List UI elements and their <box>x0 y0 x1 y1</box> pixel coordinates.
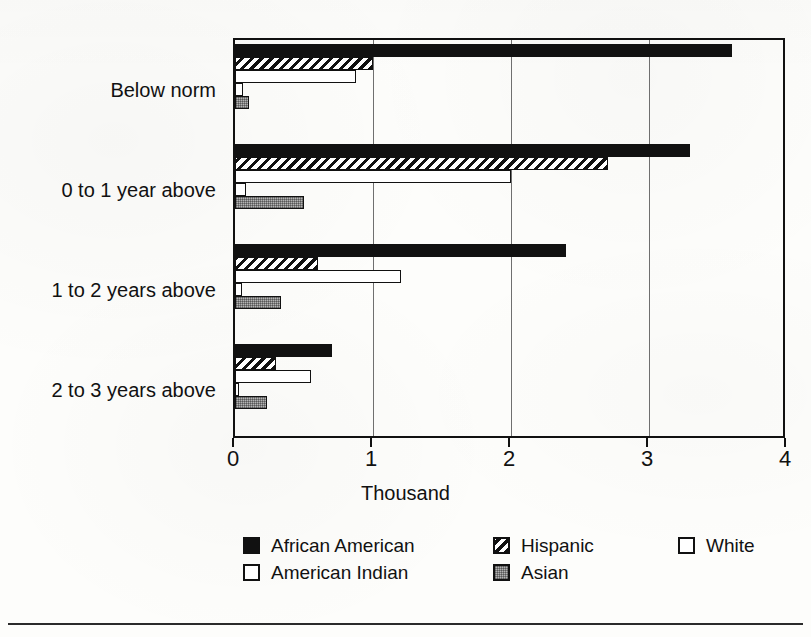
legend-swatch-gray-dotted-icon <box>493 564 510 581</box>
bar <box>235 296 281 309</box>
plot-area <box>233 38 785 438</box>
bar-group <box>235 340 783 440</box>
bar <box>235 370 311 383</box>
bar <box>235 270 401 283</box>
legend-item-african-american: African American <box>243 535 493 557</box>
legend-label-african-american: African American <box>271 535 415 557</box>
y-axis-label-below-norm: Below norm <box>110 80 216 100</box>
bar <box>235 357 276 370</box>
legend-label-american-indian: American Indian <box>271 562 408 584</box>
legend-swatch-solid-black-icon <box>243 537 260 554</box>
bar <box>235 70 356 83</box>
y-axis-label-1-to-2-years: 1 to 2 years above <box>51 280 216 300</box>
bar <box>235 57 373 70</box>
legend-item-asian: Asian <box>493 562 678 584</box>
legend-swatch-diagonal-hatch-icon <box>493 537 510 554</box>
bar <box>235 244 566 257</box>
x-tick-label-0: 0 <box>227 448 239 470</box>
x-tick-label-1: 1 <box>365 448 377 470</box>
bar <box>235 257 318 270</box>
bar-group <box>235 40 783 140</box>
y-axis-label-0-to-1-year: 0 to 1 year above <box>61 180 216 200</box>
y-axis-label-2-to-3-years: 2 to 3 years above <box>51 380 216 400</box>
bar <box>235 183 246 196</box>
legend-item-american-indian: American Indian <box>243 562 493 584</box>
legend-swatch-white-outline-icon <box>678 537 695 554</box>
bar <box>235 83 243 96</box>
legend-row-1: African American Hispanic White <box>243 532 788 559</box>
bar <box>235 96 249 109</box>
bar <box>235 144 690 157</box>
legend-item-white: White <box>678 535 755 557</box>
figure-page: Below norm 0 to 1 year above 1 to 2 year… <box>0 0 811 637</box>
bar <box>235 157 608 170</box>
legend-label-hispanic: Hispanic <box>521 535 594 557</box>
bar <box>235 170 511 183</box>
bar <box>235 44 732 57</box>
bar-group <box>235 140 783 240</box>
bar <box>235 383 239 396</box>
x-tick-label-2: 2 <box>503 448 515 470</box>
footer-rule <box>8 623 803 625</box>
bar <box>235 196 304 209</box>
legend-label-white: White <box>706 535 755 557</box>
legend-label-asian: Asian <box>521 562 569 584</box>
legend-swatch-white-outline-2-icon <box>243 564 260 581</box>
x-tick-label-4: 4 <box>779 448 791 470</box>
legend-item-hispanic: Hispanic <box>493 535 678 557</box>
bar-group <box>235 240 783 340</box>
x-axis-title: Thousand <box>0 482 811 505</box>
bar <box>235 283 242 296</box>
bar <box>235 344 332 357</box>
x-tick-label-3: 3 <box>641 448 653 470</box>
legend-row-2: American Indian Asian <box>243 559 788 586</box>
bar <box>235 396 267 409</box>
legend: African American Hispanic White American… <box>243 532 788 586</box>
